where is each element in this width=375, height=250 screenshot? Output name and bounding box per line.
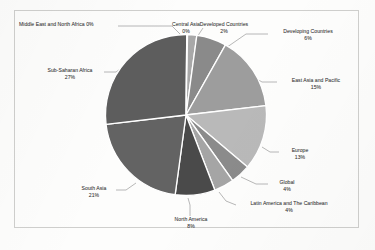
label-middle-east-north-africa: Middle East and North Africa 0% <box>19 21 94 28</box>
label-sub-saharan-africa-percent: 27% <box>36 74 104 81</box>
label-latin-america-caribbean: Latin America and The Caribbean 4% <box>234 200 344 214</box>
label-east-asia-pacific-percent: 15% <box>278 84 354 91</box>
label-sub-saharan-africa: Sub-Saharan Africa 27% <box>36 67 104 81</box>
label-latin-america-caribbean-percent: 4% <box>234 207 344 214</box>
label-north-america-text: North America <box>175 216 208 222</box>
label-middle-east-north-africa-text: Middle East and North Africa 0% <box>19 21 94 27</box>
label-global: Global 4% <box>269 179 305 193</box>
label-developed-countries: Developed Countries 2% <box>185 21 263 35</box>
label-south-asia-percent: 21% <box>72 192 116 199</box>
label-global-text: Global <box>280 179 295 185</box>
scanned-page-background: Middle East and North Africa 0% Central … <box>0 0 375 250</box>
label-east-asia-pacific: East Asia and Pacific 15% <box>278 77 354 91</box>
pie-slice-south-asia <box>106 115 186 195</box>
pie-svg <box>103 32 269 198</box>
label-europe-text: Europe <box>292 147 309 153</box>
label-south-asia-text: South Asia <box>82 185 107 191</box>
label-developed-countries-percent: 2% <box>185 28 263 35</box>
label-sub-saharan-africa-text: Sub-Saharan Africa <box>48 67 93 73</box>
label-developing-countries-text: Developing Countries <box>283 28 333 34</box>
label-europe: Europe 13% <box>280 147 320 161</box>
label-developing-countries-percent: 6% <box>268 35 348 42</box>
label-global-percent: 4% <box>269 186 305 193</box>
pie-slices <box>105 34 266 195</box>
label-developed-countries-text: Developed Countries <box>200 21 248 27</box>
label-europe-percent: 13% <box>280 154 320 161</box>
pie-chart <box>103 32 269 198</box>
label-north-america: North America 8% <box>163 216 219 230</box>
pie-slice-sub-saharan-africa <box>105 34 186 124</box>
label-latin-america-caribbean-text: Latin America and The Caribbean <box>250 200 327 206</box>
label-north-america-percent: 8% <box>163 223 219 230</box>
label-south-asia: South Asia 21% <box>72 185 116 199</box>
label-developing-countries: Developing Countries 6% <box>268 28 348 42</box>
label-east-asia-pacific-text: East Asia and Pacific <box>292 77 340 83</box>
